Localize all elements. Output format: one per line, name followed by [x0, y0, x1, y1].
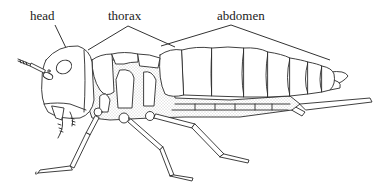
- head-label: head: [30, 9, 55, 22]
- thorax-bracket: [88, 26, 175, 50]
- abdomen-label: abdomen: [217, 9, 265, 22]
- thorax-segments: [92, 53, 160, 113]
- cerci: [288, 98, 372, 116]
- head: [42, 46, 94, 138]
- insect-diagram: head thorax abdomen: [0, 0, 388, 195]
- thorax-label: thorax: [108, 9, 141, 22]
- head-leader-line: [55, 25, 67, 50]
- hind-leg: [146, 112, 250, 164]
- insect-illustration: [0, 0, 388, 195]
